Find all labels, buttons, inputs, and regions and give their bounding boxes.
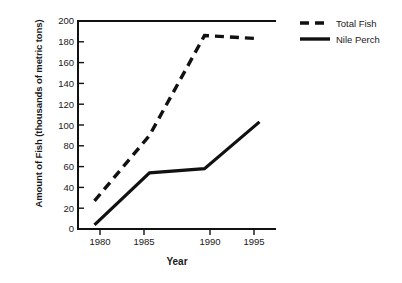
y-tick-label: 160 <box>48 58 74 68</box>
legend-item-nile-perch: Nile Perch <box>300 32 380 46</box>
chart-legend: Total Fish Nile Perch <box>300 16 380 48</box>
legend-item-total-fish: Total Fish <box>300 16 380 30</box>
y-tick-label: 140 <box>48 79 74 89</box>
chart-figure: Amount of Fish (thousands of metric tons… <box>0 0 402 283</box>
y-tick-label: 40 <box>48 183 74 193</box>
y-tick-label: 180 <box>48 37 74 47</box>
y-tick-label: 120 <box>48 100 74 110</box>
legend-label-total-fish: Total Fish <box>336 18 377 29</box>
x-axis-title: Year <box>78 256 276 267</box>
series-line-total-fish <box>95 36 260 201</box>
x-tick-label: 1995 <box>234 236 274 247</box>
y-tick-label: 80 <box>48 141 74 151</box>
y-tick-label: 60 <box>48 162 74 172</box>
x-tick-label: 1985 <box>124 236 164 247</box>
x-tick-label: 1990 <box>190 236 230 247</box>
y-axis-title: Amount of Fish (thousands of metric tons… <box>33 14 44 214</box>
y-tick-label: 100 <box>48 121 74 131</box>
y-tick-label: 0 <box>48 224 74 234</box>
legend-swatch-solid-icon <box>300 33 330 45</box>
axis-frame <box>78 21 276 229</box>
y-tick-label: 200 <box>48 16 74 26</box>
legend-label-nile-perch: Nile Perch <box>336 34 380 45</box>
legend-swatch-dashed-icon <box>300 17 330 29</box>
x-tick-label: 1980 <box>80 236 120 247</box>
y-tick-label: 20 <box>48 204 74 214</box>
